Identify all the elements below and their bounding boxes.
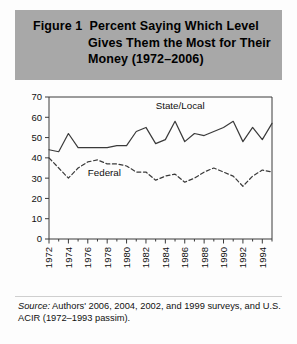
y-axis-tick-label: 40 xyxy=(31,152,42,163)
x-axis-tick-label: 1992 xyxy=(237,247,248,268)
source-text: Authors' 2006, 2004, 2002, and 1999 surv… xyxy=(18,301,281,323)
series-label-federal: Federal xyxy=(88,167,121,178)
x-axis-tick-label: 1994 xyxy=(257,247,268,268)
source-label: Source: xyxy=(18,301,50,311)
y-axis-tick-label: 20 xyxy=(31,193,42,204)
y-axis-tick-label: 0 xyxy=(37,233,42,244)
x-axis-tick-label: 1988 xyxy=(199,247,210,268)
x-axis-tick-label: 1978 xyxy=(102,247,113,268)
x-axis-tick-label: 1984 xyxy=(160,247,171,268)
line-chart: 0102030405060701972197419761978198019821… xyxy=(0,84,297,299)
y-axis-tick-label: 50 xyxy=(31,132,42,143)
title-line-2: Gives Them the Most for Their xyxy=(33,35,273,52)
x-axis-tick-label: 1982 xyxy=(140,247,151,268)
x-axis-tick-label: 1974 xyxy=(63,247,74,268)
y-axis-tick-label: 10 xyxy=(31,213,42,224)
x-axis-tick-label: 1976 xyxy=(82,247,93,268)
y-axis-tick-label: 60 xyxy=(31,112,42,123)
x-axis-tick-label: 1972 xyxy=(43,247,54,268)
series-line-state-local xyxy=(49,121,272,151)
series-label-state-local: State/Local xyxy=(156,100,205,111)
plot-frame xyxy=(49,97,272,239)
figure-title-band: Figure 1 Percent Saying Which Level Give… xyxy=(15,10,282,80)
source-note: Source: Authors' 2006, 2004, 2002, and 1… xyxy=(18,300,284,324)
footer-divider xyxy=(15,296,282,297)
x-axis-tick-label: 1980 xyxy=(121,247,132,268)
y-axis-tick-label: 30 xyxy=(31,173,42,184)
page-title: Figure 1 Percent Saying Which Level Give… xyxy=(33,18,273,68)
title-line-3: Money (1972–2006) xyxy=(33,51,273,68)
x-axis-tick-label: 1990 xyxy=(218,247,229,268)
chart-plot-area: 0102030405060701972197419761978198019821… xyxy=(0,84,297,299)
y-axis-tick-label: 70 xyxy=(31,91,42,102)
figure-container: Figure 1 Percent Saying Which Level Give… xyxy=(0,0,297,344)
title-line-1: Figure 1 Percent Saying Which Level xyxy=(33,18,273,35)
x-axis-tick-label: 1986 xyxy=(179,247,190,268)
series-line-federal xyxy=(49,158,272,186)
